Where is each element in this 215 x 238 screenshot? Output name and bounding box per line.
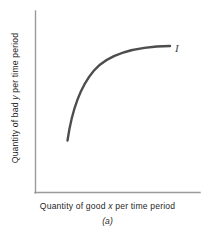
y-axis-label-variable: y [10,95,20,99]
indifference-curve [68,46,171,141]
x-axis-label: Quantity of good x per time period [0,201,215,211]
y-axis-label-text: Quantity of bad y per time period [10,32,20,162]
panel-caption-text: (a) [102,216,113,226]
y-axis-label-suffix: per time period [10,32,20,94]
x-axis-label-suffix: per time period [113,201,175,211]
y-axis-label-prefix: Quantity of bad [10,99,20,162]
y-axis-label: Quantity of bad y per time period [0,0,30,195]
figure-panel-a: I Quantity of bad y per time period Quan… [0,0,215,238]
curve-label: I [174,42,180,54]
x-axis-label-prefix: Quantity of good [40,201,108,211]
panel-caption: (a) [0,216,215,226]
